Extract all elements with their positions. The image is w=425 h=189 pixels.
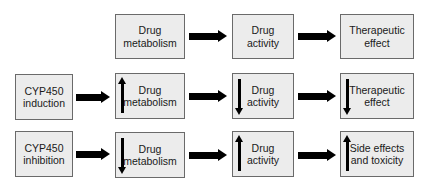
box-label: Side effects and toxicity bbox=[350, 142, 405, 167]
inhibition-drug-activity-box: Drug activity bbox=[232, 131, 294, 177]
baseline-therapeutic-effect-box: Therapeutic effect bbox=[340, 14, 414, 59]
box-label: Drug activity bbox=[247, 142, 279, 167]
box-label: Drug metabolism bbox=[123, 24, 177, 49]
inhibition-drug-metabolism-box: Drug metabolism bbox=[115, 132, 185, 178]
cyp450-inhibition-box: CYP450 inhibition bbox=[15, 131, 73, 177]
induction-therapeutic-effect-box: Therapeutic effect bbox=[340, 73, 414, 119]
side-effects-toxicity-box: Side effects and toxicity bbox=[340, 131, 414, 177]
arrow-right-icon bbox=[298, 149, 336, 162]
increase-arrow-icon bbox=[346, 141, 349, 171]
baseline-drug-activity-box: Drug activity bbox=[232, 14, 294, 59]
box-label: Drug metabolism bbox=[123, 84, 177, 109]
arrow-right-icon bbox=[189, 90, 227, 103]
arrow-right-icon bbox=[298, 30, 336, 43]
arrow-right-icon bbox=[76, 91, 110, 104]
box-label: Therapeutic effect bbox=[349, 24, 404, 49]
arrow-right-icon bbox=[76, 148, 110, 161]
arrow-right-icon bbox=[189, 30, 227, 43]
cyp450-induction-box: CYP450 induction bbox=[15, 74, 73, 120]
increase-arrow-icon bbox=[121, 83, 124, 113]
induction-drug-metabolism-box: Drug metabolism bbox=[115, 73, 185, 119]
induction-drug-activity-box: Drug activity bbox=[232, 73, 294, 119]
arrow-right-icon bbox=[298, 90, 336, 103]
increase-arrow-icon bbox=[238, 141, 241, 171]
decrease-arrow-icon bbox=[238, 79, 241, 109]
box-label: Drug metabolism bbox=[123, 143, 177, 168]
box-label: Drug activity bbox=[247, 24, 279, 49]
decrease-arrow-icon bbox=[346, 79, 349, 109]
baseline-drug-metabolism-box: Drug metabolism bbox=[115, 14, 185, 59]
box-label: CYP450 inhibition bbox=[23, 142, 64, 167]
box-label: Therapeutic effect bbox=[349, 84, 404, 109]
box-label: CYP450 induction bbox=[23, 85, 65, 110]
box-label: Drug activity bbox=[247, 84, 279, 109]
decrease-arrow-icon bbox=[121, 138, 124, 168]
arrow-right-icon bbox=[189, 149, 227, 162]
